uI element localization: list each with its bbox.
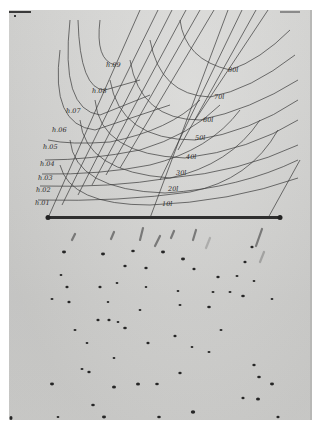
label-h04: h.04 — [40, 160, 55, 168]
label-h09: h.09 — [106, 61, 121, 69]
reference-bar — [48, 216, 280, 219]
label-h08: h.08 — [92, 87, 107, 95]
label-h07: h.07 — [66, 107, 81, 115]
label-h01: h.01 — [35, 199, 50, 207]
label-h02: h.02 — [36, 186, 51, 194]
corner-marker — [9, 11, 31, 13]
label-h03: h.03 — [38, 174, 53, 182]
diffraction-spots — [10, 246, 280, 420]
label-l40: 40l — [185, 153, 196, 161]
label-l70: 70l — [214, 93, 224, 101]
l-curves — [60, 20, 298, 205]
label-h05: h.05 — [43, 143, 58, 151]
label-l30: 30l — [176, 169, 186, 177]
label-l60: 60l — [203, 116, 213, 124]
label-l10: 10l — [162, 200, 172, 208]
label-l80: 80l — [228, 66, 238, 74]
chart-overlay: h.01 h.02 h.03 h.04 h.05 h.06 h.07 h.08 … — [0, 0, 321, 432]
streak-reflections — [72, 228, 264, 262]
label-l20: 20l — [167, 185, 178, 193]
label-l50: 50l — [195, 134, 205, 142]
label-h06: h.06 — [52, 126, 67, 134]
